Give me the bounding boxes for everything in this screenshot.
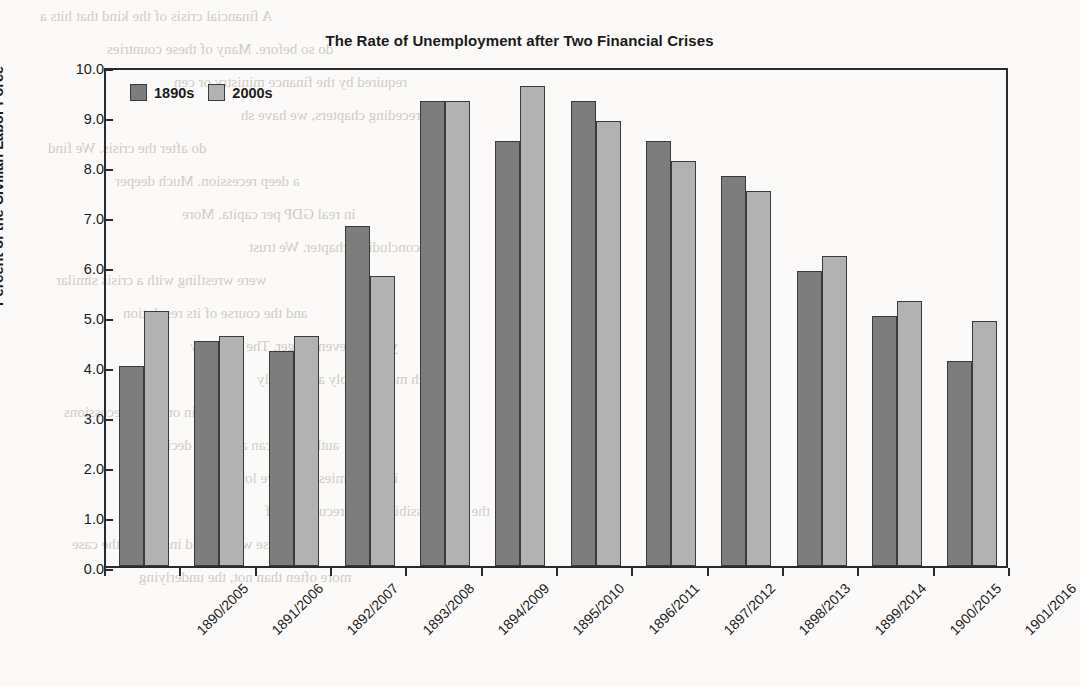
bar <box>194 341 219 566</box>
y-axis-title: Percent of the Civilian Labor Force <box>0 0 6 386</box>
x-tick-label: 1897/2012 <box>720 580 778 638</box>
bar <box>596 121 621 566</box>
legend-swatch-icon <box>130 84 147 101</box>
legend-entry: 2000s <box>208 84 272 101</box>
bar <box>420 101 445 566</box>
bar <box>721 176 746 566</box>
x-tick-label: 1891/2006 <box>268 580 326 638</box>
legend-label: 2000s <box>232 85 272 101</box>
bar <box>746 191 771 566</box>
x-tick-mark <box>857 568 859 576</box>
x-tick-mark <box>104 568 106 576</box>
x-tick-label: 1898/2013 <box>796 580 854 638</box>
bar <box>947 361 972 566</box>
bar <box>119 366 144 566</box>
x-tick-mark <box>481 568 483 576</box>
legend-swatch-icon <box>208 84 225 101</box>
y-tick-label: 8.0 <box>52 161 104 177</box>
x-tick-label: 1896/2011 <box>645 580 702 637</box>
chart-title: The Rate of Unemployment after Two Finan… <box>0 32 1039 49</box>
y-tick-label: 2.0 <box>52 461 104 477</box>
x-tick-label: 1899/2014 <box>871 580 929 638</box>
bar <box>370 276 395 566</box>
y-tick-label: 6.0 <box>52 261 104 277</box>
x-tick-label: 1890/2005 <box>193 580 251 638</box>
x-tick-mark <box>782 568 784 576</box>
legend-entry: 1890s <box>130 84 194 101</box>
bar <box>495 141 520 566</box>
x-tick-label: 1893/2008 <box>419 580 477 638</box>
x-tick-mark <box>1008 568 1010 576</box>
x-tick-mark <box>933 568 935 576</box>
bar <box>822 256 847 566</box>
legend-label: 1890s <box>154 85 194 101</box>
y-tick-label: 9.0 <box>52 111 104 127</box>
x-tick-mark <box>631 568 633 576</box>
y-tick-label: 1.0 <box>52 511 104 527</box>
x-tick-label: 1892/2007 <box>344 580 402 638</box>
x-tick-label: 1895/2010 <box>570 580 628 638</box>
bar <box>219 336 244 566</box>
x-tick-label: 1894/2009 <box>494 580 552 638</box>
x-tick-mark <box>255 568 257 576</box>
bars-container <box>106 70 1006 566</box>
bar <box>144 311 169 566</box>
y-axis: Percent of the Civilian Labor Force 0.01… <box>0 68 104 570</box>
bar <box>345 226 370 566</box>
y-tick-label: 5.0 <box>52 311 104 327</box>
bar <box>445 101 470 566</box>
x-tick-mark <box>330 568 332 576</box>
x-tick-mark <box>707 568 709 576</box>
bar <box>520 86 545 566</box>
y-tick-label: 4.0 <box>52 361 104 377</box>
x-tick-label: 1901/2016 <box>1022 580 1080 638</box>
x-tick-mark <box>405 568 407 576</box>
bar <box>269 351 294 566</box>
x-tick-mark <box>179 568 181 576</box>
plot-area: 1890s2000s <box>104 68 1008 568</box>
y-tick-label: 7.0 <box>52 211 104 227</box>
bar <box>571 101 596 566</box>
y-tick-label: 10.0 <box>52 61 104 77</box>
bar <box>872 316 897 566</box>
legend: 1890s2000s <box>130 84 273 101</box>
y-tick-label: 0.0 <box>52 561 104 577</box>
x-tick-label: 1900/2015 <box>946 580 1004 638</box>
bar <box>897 301 922 566</box>
x-axis: 1890/20051891/20061892/20071893/20081894… <box>104 568 1010 687</box>
bar <box>671 161 696 566</box>
bar <box>294 336 319 566</box>
y-tick-label: 3.0 <box>52 411 104 427</box>
bar <box>972 321 997 566</box>
bar <box>797 271 822 566</box>
x-tick-mark <box>556 568 558 576</box>
bar <box>646 141 671 566</box>
